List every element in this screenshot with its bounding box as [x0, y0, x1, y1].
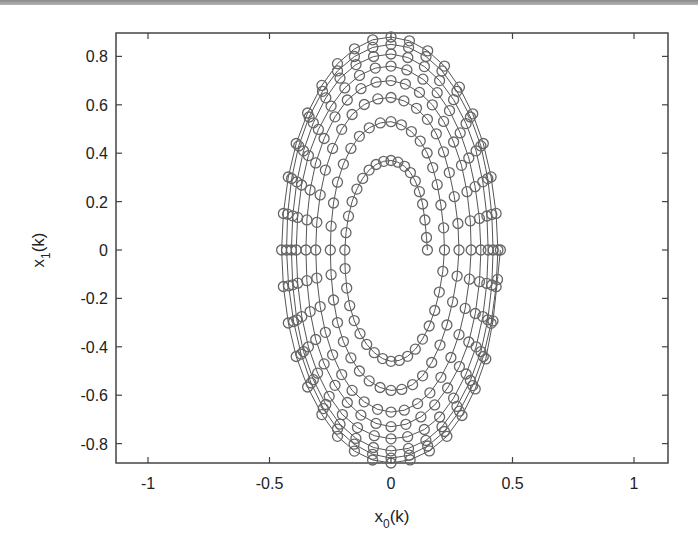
x-tick-label: 0: [387, 475, 396, 492]
x-axis-label: x0(k): [374, 507, 409, 531]
y-axis-label: x1(k): [29, 232, 53, 267]
y-tick-label: -0.2: [80, 290, 108, 307]
x-tick-label: 1: [630, 475, 639, 492]
x-tick-label: -1: [141, 475, 155, 492]
phase-plot: -1-0.500.51 0.80.60.40.20-0.2-0.4-0.6-0.…: [0, 0, 698, 554]
x-tick-label: -0.5: [256, 475, 284, 492]
y-tick-label: -0.4: [80, 339, 108, 356]
y-tick-label: -0.8: [80, 436, 108, 453]
y-tick-label: 0.4: [86, 145, 108, 162]
y-tick-label: -0.6: [80, 387, 108, 404]
y-tick-label: 0: [99, 242, 108, 259]
y-axis-ticks: 0.80.60.40.20-0.2-0.4-0.6-0.8: [80, 48, 668, 452]
trajectory-series: [277, 32, 506, 468]
x-tick-label: 0.5: [501, 475, 523, 492]
y-tick-label: 0.2: [86, 194, 108, 211]
y-tick-label: 0.6: [86, 97, 108, 114]
y-tick-label: 0.8: [86, 48, 108, 65]
